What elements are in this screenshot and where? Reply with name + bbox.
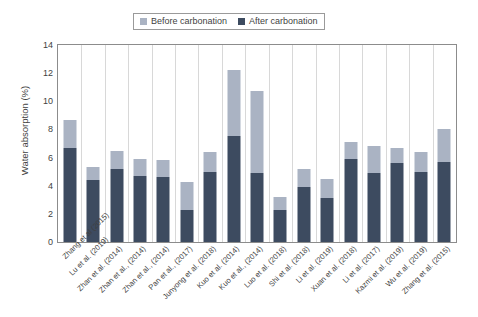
stacked-bar[interactable] (344, 142, 357, 242)
bar-slot (292, 45, 315, 242)
legend-label-after-carbonation: After carbonation (249, 17, 318, 26)
bar-segment-after-carbonation (110, 169, 123, 242)
plot-area (57, 44, 457, 243)
bar-segment-before-carbonation (297, 169, 310, 187)
stacked-bar[interactable] (63, 120, 76, 242)
stacked-bar[interactable] (204, 152, 217, 242)
bar-segment-after-carbonation (297, 187, 310, 242)
bar-slot (339, 45, 362, 242)
bar-slot (409, 45, 432, 242)
stacked-bar[interactable] (157, 160, 170, 242)
y-tick-label: 12 (7, 69, 53, 78)
bar-segment-before-carbonation (227, 70, 240, 136)
stacked-bar[interactable] (368, 146, 381, 242)
bar-segment-before-carbonation (344, 142, 357, 159)
bar-slot (198, 45, 221, 242)
y-tick-label: 14 (7, 41, 53, 50)
chart-legend: Before carbonation After carbonation (133, 13, 325, 30)
bar-segment-before-carbonation (63, 120, 76, 148)
bar-segment-before-carbonation (274, 197, 287, 210)
bar-segment-after-carbonation (368, 173, 381, 242)
bar-slot (269, 45, 292, 242)
x-tick-label: Zhang et al (2015) (61, 245, 77, 261)
bar-segment-before-carbonation (321, 179, 334, 199)
stacked-bar[interactable] (180, 182, 193, 243)
bar-segment-after-carbonation (391, 163, 404, 242)
y-tick-label: 2 (7, 210, 53, 219)
stacked-bar[interactable] (321, 179, 334, 242)
bar-segment-after-carbonation (63, 148, 76, 242)
bar-segment-before-carbonation (157, 160, 170, 177)
stacked-bar[interactable] (274, 197, 287, 242)
y-tick-label: 0 (7, 238, 53, 247)
bar-slot (433, 45, 456, 242)
bar-segment-after-carbonation (414, 172, 427, 242)
bar-segment-after-carbonation (321, 198, 334, 242)
bar-slot (222, 45, 245, 242)
stacked-bar[interactable] (414, 152, 427, 242)
stacked-bar[interactable] (391, 148, 404, 242)
bar-segment-before-carbonation (391, 148, 404, 163)
bar-segment-before-carbonation (438, 129, 451, 161)
bar-segment-after-carbonation (344, 159, 357, 242)
legend-swatch-before-carbonation (140, 18, 147, 25)
legend-entry-before-carbonation: Before carbonation (140, 17, 227, 26)
y-tick-label: 6 (7, 154, 53, 163)
stacked-bar[interactable] (297, 169, 310, 242)
bar-segment-after-carbonation (250, 173, 263, 242)
bar-segment-after-carbonation (180, 210, 193, 242)
y-tick-label: 10 (7, 97, 53, 106)
bar-segment-after-carbonation (204, 172, 217, 242)
bar-slot (245, 45, 268, 242)
bar-slot (152, 45, 175, 242)
bar-segment-before-carbonation (250, 91, 263, 173)
plot-inner (58, 45, 456, 242)
bar-slot (128, 45, 151, 242)
bar-segment-after-carbonation (157, 177, 170, 242)
bar-slot (105, 45, 128, 242)
stacked-bar[interactable] (227, 70, 240, 242)
legend-label-before-carbonation: Before carbonation (151, 17, 227, 26)
bar-segment-before-carbonation (87, 167, 100, 180)
bar-segment-before-carbonation (368, 146, 381, 173)
y-tick-label: 8 (7, 125, 53, 134)
bar-slot (175, 45, 198, 242)
y-tick-label: 4 (7, 182, 53, 191)
stacked-bar[interactable] (438, 129, 451, 242)
bar-slot (362, 45, 385, 242)
legend-entry-after-carbonation: After carbonation (238, 17, 318, 26)
bar-slot (386, 45, 409, 242)
bar-segment-before-carbonation (180, 182, 193, 210)
stacked-bar[interactable] (133, 159, 146, 242)
bar-segment-before-carbonation (414, 152, 427, 172)
water-absorption-chart-figure: Before carbonation After carbonation Wat… (0, 0, 478, 317)
bar-segment-after-carbonation (274, 210, 287, 242)
bar-segment-before-carbonation (133, 159, 146, 176)
bar-slot (58, 45, 81, 242)
stacked-bar[interactable] (110, 151, 123, 242)
x-axis-tick-labels: Zhang et al (2015)Lu et al. (2019)Zhan e… (57, 245, 457, 317)
bar-segment-after-carbonation (227, 136, 240, 242)
legend-swatch-after-carbonation (238, 18, 245, 25)
y-axis-tick-labels: 02468101214 (5, 44, 53, 243)
bar-segment-after-carbonation (438, 162, 451, 242)
bar-slot (316, 45, 339, 242)
bar-segment-before-carbonation (204, 152, 217, 172)
bar-segment-after-carbonation (133, 176, 146, 242)
stacked-bar[interactable] (250, 91, 263, 242)
bar-segment-before-carbonation (110, 151, 123, 169)
